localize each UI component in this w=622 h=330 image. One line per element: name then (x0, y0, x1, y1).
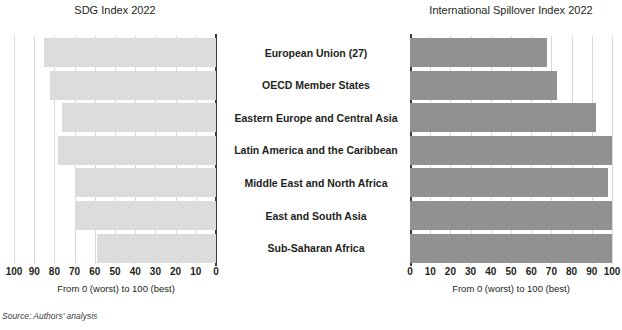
bar-row (14, 136, 216, 165)
plot-area-sdg-index (14, 36, 216, 264)
axis-tick-sdg-80: 80 (49, 266, 60, 277)
bar-spillover-3[interactable] (410, 136, 612, 165)
bar-sdg-6[interactable] (97, 234, 216, 263)
axis-tick-sdg-0: 0 (213, 266, 219, 277)
category-label-2: Eastern Europe and Central Asia (226, 103, 406, 132)
chart-title-sdg-index: SDG Index 2022 (0, 4, 230, 16)
axis-tick-spillover-80: 80 (566, 266, 577, 277)
bar-spillover-4[interactable] (410, 168, 608, 197)
bar-row (410, 38, 612, 67)
bar-row (410, 201, 612, 230)
bar-spillover-1[interactable] (410, 71, 557, 100)
axis-tick-spillover-40: 40 (485, 266, 496, 277)
bar-sdg-1[interactable] (50, 71, 216, 100)
bar-row (14, 168, 216, 197)
bar-sdg-4[interactable] (75, 168, 216, 197)
source-note: Source: Authors' analysis (2, 311, 97, 321)
bar-row (410, 71, 612, 100)
bar-row (14, 38, 216, 67)
gridline (612, 36, 613, 264)
bar-row (410, 234, 612, 263)
bar-row (410, 136, 612, 165)
axis-tick-spillover-50: 50 (505, 266, 516, 277)
axis-tick-sdg-90: 90 (29, 266, 40, 277)
axis-tick-spillover-30: 30 (465, 266, 476, 277)
bar-sdg-3[interactable] (58, 136, 216, 165)
axis-tick-spillover-0: 0 (407, 266, 413, 277)
bar-sdg-5[interactable] (75, 201, 216, 230)
axis-tick-sdg-60: 60 (89, 266, 100, 277)
bar-spillover-5[interactable] (410, 201, 612, 230)
x-axis-ticks-sdg-index: 1009080706050403020100 (14, 266, 216, 280)
chart-title-spillover-index: International Spillover Index 2022 (400, 4, 622, 16)
axis-tick-spillover-20: 20 (445, 266, 456, 277)
bar-row (14, 103, 216, 132)
axis-tick-spillover-60: 60 (526, 266, 537, 277)
category-label-column: European Union (27)OECD Member StatesEas… (226, 36, 406, 264)
x-axis-caption-sdg-index: From 0 (worst) to 100 (best) (0, 283, 232, 294)
bar-spillover-2[interactable] (410, 103, 596, 132)
x-axis-caption-spillover-index: From 0 (worst) to 100 (best) (400, 283, 622, 294)
category-label-1: OECD Member States (226, 71, 406, 100)
plot-area-spillover-index (410, 36, 612, 264)
category-label-0: European Union (27) (226, 38, 406, 67)
axis-tick-sdg-40: 40 (130, 266, 141, 277)
bar-row (410, 168, 612, 197)
bar-row (410, 103, 612, 132)
axis-tick-sdg-100: 100 (6, 266, 23, 277)
bar-sdg-2[interactable] (62, 103, 216, 132)
category-label-4: Middle East and North Africa (226, 168, 406, 197)
chart-panel-spillover-index (410, 36, 612, 264)
axis-tick-spillover-100: 100 (604, 266, 621, 277)
bar-row (14, 71, 216, 100)
axis-tick-sdg-20: 20 (170, 266, 181, 277)
bar-row (14, 201, 216, 230)
axis-tick-sdg-10: 10 (190, 266, 201, 277)
sdg-spillover-figure: SDG Index 2022 International Spillover I… (0, 0, 622, 330)
axis-tick-spillover-10: 10 (425, 266, 436, 277)
category-label-3: Latin America and the Caribbean (226, 136, 406, 165)
axis-tick-sdg-70: 70 (69, 266, 80, 277)
axis-tick-sdg-50: 50 (109, 266, 120, 277)
x-axis-ticks-spillover-index: 0102030405060708090100 (410, 266, 612, 280)
axis-tick-sdg-30: 30 (150, 266, 161, 277)
category-label-5: East and South Asia (226, 201, 406, 230)
category-label-6: Sub-Saharan Africa (226, 234, 406, 263)
bar-row (14, 234, 216, 263)
chart-panel-sdg-index (14, 36, 216, 264)
bar-spillover-0[interactable] (410, 38, 547, 67)
axis-tick-spillover-70: 70 (546, 266, 557, 277)
axis-tick-spillover-90: 90 (586, 266, 597, 277)
bar-sdg-0[interactable] (44, 38, 216, 67)
bar-spillover-6[interactable] (410, 234, 612, 263)
